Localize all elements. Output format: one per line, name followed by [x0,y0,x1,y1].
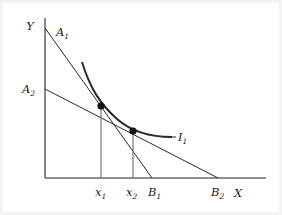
label-i1-subscript: 1 [183,137,188,146]
x-axis-label: X [233,186,243,200]
label-b2: B2 [210,185,224,201]
label-b2-base: B [210,185,219,199]
label-b2-subscript: 2 [218,192,224,201]
label-a1-base: A [55,25,64,39]
economics-diagram: Y X A1 A2 x1 x2 B1 B2 I1 [0,0,282,215]
label-a2-subscript: 2 [29,89,35,98]
label-b1-subscript: 1 [156,192,161,201]
tangency-point-1 [97,102,104,109]
y-axis-label: Y [26,19,35,33]
tangency-point-2 [129,127,136,134]
label-x1: x1 [95,185,106,201]
label-a2-base: A [21,82,30,96]
label-b1: B1 [147,185,161,201]
label-x2-subscript: 2 [132,192,138,201]
diagram-canvas: Y X A1 A2 x1 x2 B1 B2 I1 [0,0,282,215]
label-b1-base: B [147,185,156,199]
label-x1-subscript: 1 [102,192,107,201]
label-a1-subscript: 1 [64,32,69,41]
budget-line-1 [45,28,152,178]
label-a1: A1 [55,25,69,41]
label-a2: A2 [21,82,35,98]
label-x2: x2 [126,185,138,201]
label-i1: I1 [177,130,187,146]
